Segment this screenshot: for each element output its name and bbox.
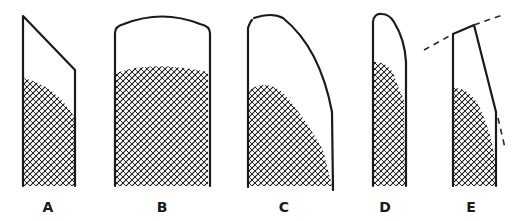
panel-b-hatch: [116, 66, 208, 186]
panel-e-hatch: [454, 88, 496, 186]
panel-a: A: [23, 16, 75, 215]
panel-c-label: C: [279, 199, 289, 215]
figure-canvas: A B C D E: [0, 0, 527, 221]
panel-d-hatch: [374, 62, 405, 186]
panel-e: E: [424, 14, 505, 215]
panel-b-label: B: [157, 199, 168, 215]
panel-e-label: E: [466, 199, 476, 215]
panel-d: D: [373, 14, 406, 215]
panel-c-hatch: [249, 85, 332, 186]
panel-b: B: [115, 17, 210, 216]
panel-d-label: D: [379, 199, 391, 215]
panel-a-hatch: [23, 78, 75, 186]
panel-a-label: A: [43, 199, 54, 215]
panel-c: C: [248, 15, 333, 215]
panel-e-side-extension: [498, 118, 505, 148]
panel-e-top-extension: [424, 14, 505, 50]
